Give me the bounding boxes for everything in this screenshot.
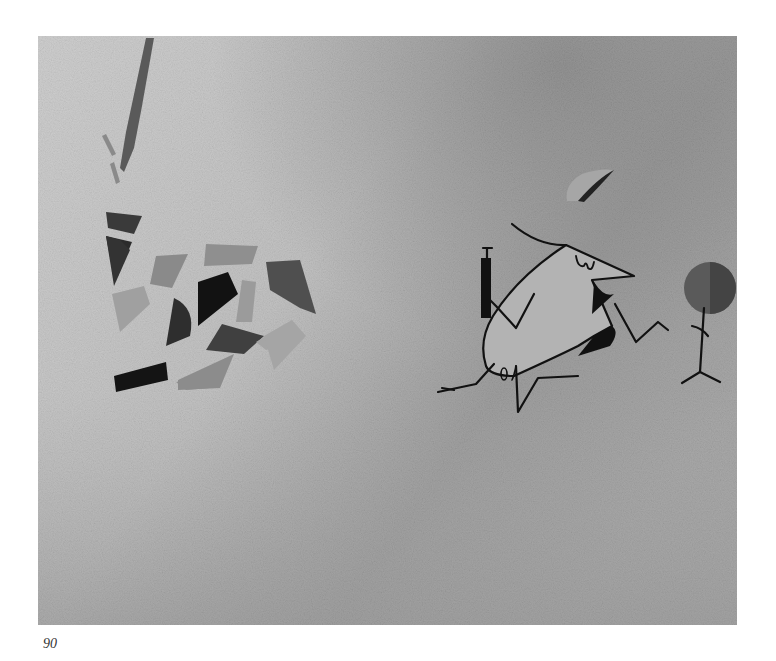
- textured-background: [38, 36, 737, 625]
- illustration-plate: [38, 36, 737, 625]
- page-number: 90: [43, 636, 57, 652]
- syringe: [481, 248, 492, 318]
- illustration-canvas: [38, 36, 737, 625]
